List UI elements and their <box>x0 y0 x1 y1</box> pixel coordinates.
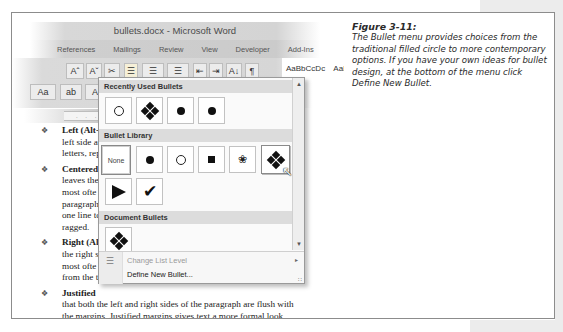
bullet-option-hollow-circle[interactable] <box>105 97 132 124</box>
bullet-menu: Recently Used Bullets Bullet Library Non… <box>98 77 305 284</box>
bullet-option-four-diamond[interactable] <box>136 97 163 124</box>
diamond-bullet-icon: ❖ <box>41 164 48 176</box>
paragraph-line: paragraph <box>62 199 99 209</box>
hollow-circle-icon <box>114 106 124 116</box>
bullet-option-filled-circle[interactable] <box>167 97 194 124</box>
paragraph-heading: Right (Al <box>62 237 99 247</box>
scroll-up-icon[interactable]: ▲ <box>293 81 305 87</box>
tab-review[interactable]: Review <box>141 45 184 54</box>
word-window: bullets.docx - Microsoft Word References… <box>12 13 312 319</box>
sparkle-icon: ❀ <box>238 153 247 166</box>
paragraph-line: most ofte <box>62 261 96 271</box>
scroll-down-icon[interactable]: ▼ <box>293 241 305 247</box>
change-list-level-item[interactable]: Change List Level <box>127 256 187 265</box>
paragraph-line: one line to <box>62 210 101 220</box>
menu-scrollbar[interactable]: ▲ ▼ <box>292 78 304 250</box>
four-diamond-icon <box>111 233 127 249</box>
bullet-option-arrowhead[interactable] <box>105 178 132 205</box>
recent-bullets-header: Recently Used Bullets <box>99 80 292 93</box>
paragraph-line: the right s <box>62 249 99 259</box>
caption-text: The Bullet menu provides choices from th… <box>352 32 547 88</box>
diamond-bullet-icon: ❖ <box>41 125 48 137</box>
paragraph-line: from the t <box>62 272 98 282</box>
filled-circle-icon <box>208 107 216 115</box>
figure-frame: bullets.docx - Microsoft Word References… <box>11 12 555 319</box>
background-strip-right <box>555 0 563 332</box>
paragraph-line: ragged. <box>62 222 89 232</box>
paragraph-line: the margins. Justified margins gives tex… <box>62 311 283 319</box>
bullet-option-four-diamond[interactable] <box>105 227 132 254</box>
list-level-icon: ☰ <box>106 256 114 266</box>
ribbon-tabs: References Mailings Review View Develope… <box>30 40 320 58</box>
hollow-circle-icon <box>176 155 186 165</box>
arrowhead-icon <box>112 185 126 199</box>
four-diamond-icon <box>142 103 158 119</box>
menu-gutter: ☰ <box>99 252 123 284</box>
filled-square-icon <box>208 156 215 163</box>
paragraph-heading: Left (Alt- <box>62 125 99 135</box>
style-sample: AaBbCcDc <box>286 64 325 73</box>
tab-view[interactable]: View <box>183 45 217 54</box>
filled-circle-icon <box>177 107 185 115</box>
diamond-bullet-icon: ❖ <box>41 288 48 300</box>
bullet-option-checkmark[interactable]: ✔ <box>136 178 163 205</box>
paragraph-heading: Centered <box>62 164 98 174</box>
bullet-option-sparkle[interactable]: ❀ <box>229 146 256 173</box>
menu-footer: ☰ Change List Level ▸ Define New Bullet.… <box>99 251 304 283</box>
bullet-option-none[interactable]: None <box>101 145 131 175</box>
bullet-library-header: Bullet Library <box>99 129 292 142</box>
paragraph-line: letters, rep <box>62 148 101 158</box>
bullet-option-filled-circle[interactable] <box>198 97 225 124</box>
background-strip-bottom <box>470 320 563 332</box>
tab-references[interactable]: References <box>30 45 95 54</box>
window-title: bullets.docx - Microsoft Word <box>30 22 320 40</box>
bullet-option-hollow-circle[interactable] <box>167 146 194 173</box>
none-label: None <box>108 157 125 164</box>
paragraph-heading: Justified <box>62 288 96 298</box>
filled-circle-icon <box>146 156 154 164</box>
diamond-bullet-icon: ❖ <box>41 237 48 249</box>
figure-number: Figure 3-11: <box>352 21 552 32</box>
highlight-button[interactable]: ab <box>60 84 82 100</box>
figure-caption: Figure 3-11: The Bullet menu provides ch… <box>352 21 552 89</box>
checkmark-icon: ✔ <box>143 183 157 200</box>
paragraph-line: left side a <box>62 137 98 147</box>
paragraph-line: leaves the <box>62 175 98 185</box>
paragraph-line: that both the left and right sides of th… <box>62 299 294 309</box>
change-case-button[interactable]: Aa <box>30 84 56 100</box>
bullet-option-filled-circle[interactable] <box>136 146 163 173</box>
style-sample-2: AaB <box>333 64 344 73</box>
bullet-option-filled-square[interactable] <box>198 146 225 173</box>
paragraph-line: most ofte <box>62 187 96 197</box>
define-new-bullet-item[interactable]: Define New Bullet... <box>127 270 193 279</box>
submenu-arrow-icon: ▸ <box>295 256 298 263</box>
resize-grip-icon[interactable]: ∷ <box>298 275 302 282</box>
background-strip-top <box>480 0 563 12</box>
grow-font-button[interactable]: Aˆ <box>66 63 84 79</box>
tab-mailings[interactable]: Mailings <box>95 45 141 54</box>
tab-add-ins[interactable]: Add-Ins <box>270 45 314 54</box>
list-item: ❖ Justified that both the left and right… <box>26 288 331 319</box>
document-bullets-header: Document Bullets <box>99 211 292 224</box>
tab-developer[interactable]: Developer <box>218 45 270 54</box>
